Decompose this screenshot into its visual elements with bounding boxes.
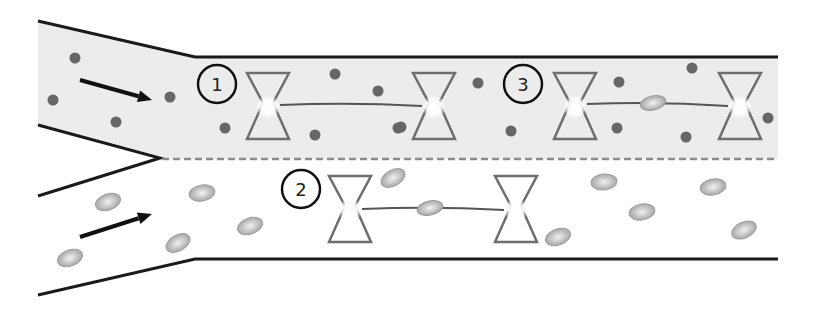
diagram-canvas: 123 [0,0,814,317]
trap-focus-glow [728,95,752,119]
dot-particle [396,122,407,133]
dot-particle [612,123,623,134]
step-number: 2 [295,179,306,200]
dot-particle [506,126,517,137]
dot-particle [220,123,231,134]
dot-particle [473,78,484,89]
dot-particle [614,77,625,88]
upper-channel [38,21,778,159]
dot-particle [330,69,341,80]
trap-focus-glow [504,198,528,222]
trap-focus-glow [422,95,446,119]
trap-focus-glow [256,95,280,119]
step-number: 1 [211,74,222,95]
dot-particle [681,132,692,143]
dot-particle [111,117,122,128]
dot-particle [687,63,698,74]
dot-particle [763,113,774,124]
dot-particle [310,130,321,141]
step-number: 3 [517,74,528,95]
trap-focus-glow [338,198,362,222]
dot-particle [70,53,81,64]
dot-particle [373,86,384,97]
dot-particle [165,92,176,103]
lower-channel [38,159,778,295]
trap-focus-glow [563,95,587,119]
channel-diagram: 123 [0,0,814,317]
dot-particle [48,95,59,106]
